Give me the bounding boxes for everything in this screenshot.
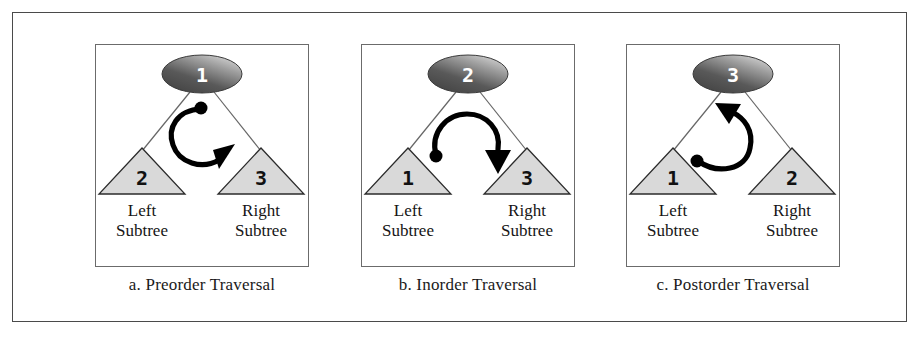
traversal-arrow-path [698,112,751,169]
right-subtree-label-line2: Subtree [766,221,818,240]
panel-preorder-diagram: 1 2 3 Left Subtree Right Subtree [95,44,309,267]
left-subtree-label-line1: Left [659,201,688,220]
left-subtree-number: 1 [667,166,679,190]
left-subtree-label-line1: Left [128,201,157,220]
right-subtree-label-line1: Right [773,201,811,220]
left-subtree-label-line2: Subtree [116,221,168,240]
panel-preorder: 1 2 3 Left Subtree Right Subtree [95,44,309,267]
left-subtree-label-line2: Subtree [647,221,699,240]
panel-postorder: 3 1 2 Left Subtree Right Subtree [626,44,840,267]
edge-root-to-left [142,92,190,151]
right-subtree-label-line2: Subtree [501,221,553,240]
traversal-figure: 1 2 3 Left Subtree Right Subtree [0,0,921,337]
left-subtree-number: 1 [402,166,414,190]
edge-root-to-left [673,92,721,151]
caption-postorder: c. Postorder Traversal [603,275,863,295]
figure-outer-frame: 1 2 3 Left Subtree Right Subtree [12,12,907,322]
traversal-arrow-path [171,109,219,165]
caption-preorder: a. Preorder Traversal [72,275,332,295]
panel-postorder-diagram: 3 1 2 Left Subtree Right Subtree [626,44,840,267]
left-subtree-label-line1: Left [394,201,423,220]
right-subtree-number: 3 [521,166,533,190]
root-node-number: 3 [727,63,739,87]
traversal-arrow-head [213,144,235,169]
right-subtree-number: 2 [786,166,798,190]
right-subtree-label-line2: Subtree [235,221,287,240]
root-node-number: 2 [462,63,474,87]
left-subtree-number: 2 [136,166,148,190]
traversal-start-dot [195,102,208,115]
left-subtree-label-line2: Subtree [382,221,434,240]
edge-root-to-right [214,92,261,151]
panel-inorder: 2 1 3 Left Subtree Right Subtree [361,44,575,267]
traversal-arrow-path [435,114,499,155]
root-node-number: 1 [196,63,208,87]
traversal-start-dot [691,155,704,168]
traversal-start-dot [430,150,443,163]
panel-inorder-diagram: 2 1 3 Left Subtree Right Subtree [361,44,575,267]
panel-row: 1 2 3 Left Subtree Right Subtree [13,13,908,323]
right-subtree-label-line1: Right [508,201,546,220]
caption-inorder: b. Inorder Traversal [338,275,598,295]
right-subtree-number: 3 [255,166,267,190]
right-subtree-label-line1: Right [242,201,280,220]
